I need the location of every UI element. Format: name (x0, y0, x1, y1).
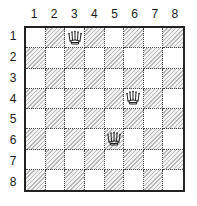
board-square (144, 150, 164, 170)
board-square (124, 48, 144, 68)
board-square (85, 48, 105, 68)
board-square (85, 89, 105, 109)
chess-board (24, 26, 185, 192)
board-square (85, 170, 105, 190)
board-square (46, 69, 66, 89)
board-square (65, 109, 85, 129)
board-square (65, 69, 85, 89)
column-labels: 12345678 (24, 7, 185, 21)
board-square (26, 69, 46, 89)
board-square (163, 89, 183, 109)
board-square (65, 48, 85, 68)
board-square (163, 129, 183, 149)
row-label: 6 (6, 130, 20, 151)
column-label: 5 (105, 7, 125, 21)
row-label: 8 (6, 171, 20, 192)
queen-icon (125, 90, 141, 106)
column-label: 4 (84, 7, 104, 21)
board-square (163, 109, 183, 129)
board-square (163, 48, 183, 68)
row-label: 4 (6, 88, 20, 109)
board-square (105, 109, 125, 129)
board-square (144, 48, 164, 68)
board-square (144, 109, 164, 129)
board-square (46, 129, 66, 149)
board-square (105, 28, 125, 48)
board-square (163, 69, 183, 89)
board-square (26, 150, 46, 170)
row-labels: 12345678 (6, 26, 20, 192)
board-square (85, 109, 105, 129)
row-label: 7 (6, 151, 20, 172)
board-square (105, 170, 125, 190)
board-square (65, 150, 85, 170)
board-square (124, 150, 144, 170)
board-square (65, 129, 85, 149)
board-square (46, 170, 66, 190)
board-square (105, 48, 125, 68)
column-label: 2 (44, 7, 64, 21)
queen-icon (106, 131, 122, 147)
board-square (85, 28, 105, 48)
board-square (124, 28, 144, 48)
column-label: 6 (125, 7, 145, 21)
board-square (46, 109, 66, 129)
board-square (124, 89, 144, 109)
board-square (105, 150, 125, 170)
row-label: 1 (6, 26, 20, 47)
board-square (144, 129, 164, 149)
board-square (26, 48, 46, 68)
board-square (65, 89, 85, 109)
board-square (144, 69, 164, 89)
column-label: 3 (64, 7, 84, 21)
queen-icon (67, 30, 83, 46)
board-square (65, 28, 85, 48)
column-label: 7 (145, 7, 165, 21)
board-square (163, 170, 183, 190)
board-square (163, 28, 183, 48)
board-square (26, 28, 46, 48)
board-square (26, 129, 46, 149)
board-square (46, 150, 66, 170)
board-square (144, 28, 164, 48)
board-square (124, 69, 144, 89)
row-label: 2 (6, 47, 20, 68)
board-square (85, 150, 105, 170)
board-square (124, 170, 144, 190)
row-label: 5 (6, 109, 20, 130)
board-square (144, 89, 164, 109)
board-square (46, 28, 66, 48)
board-square (26, 109, 46, 129)
board-square (144, 170, 164, 190)
board-square (124, 129, 144, 149)
board-square (163, 150, 183, 170)
board-square (26, 89, 46, 109)
board-square (105, 69, 125, 89)
row-label: 3 (6, 68, 20, 89)
board-square (85, 69, 105, 89)
column-label: 8 (165, 7, 185, 21)
board-square (26, 170, 46, 190)
board-square (105, 129, 125, 149)
board-square (124, 109, 144, 129)
board-square (105, 89, 125, 109)
board-square (85, 129, 105, 149)
column-label: 1 (24, 7, 44, 21)
board-square (65, 170, 85, 190)
board-square (46, 89, 66, 109)
board-square (46, 48, 66, 68)
